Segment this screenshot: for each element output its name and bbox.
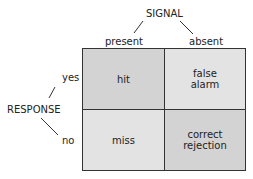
cell-correct-rejection-line2: rejection [183,140,227,151]
cell-correct-rejection: correct rejection [165,110,245,170]
cell-false-alarm-line2: alarm [191,79,220,90]
cell-false-alarm-line1: false [191,68,220,79]
cell-hit: hit [83,49,165,110]
contingency-matrix: hit false alarm miss correct rejection [82,48,246,171]
signal-absent-label: absent [189,36,223,47]
cell-miss: miss [83,110,165,170]
cell-false-alarm: false alarm [165,49,245,110]
cell-hit-label: hit [117,74,130,85]
response-yes-label: yes [62,72,79,83]
cell-correct-rejection-line1: correct [183,129,227,140]
response-no-label: no [62,135,74,146]
response-title: RESPONSE [7,104,61,115]
cell-miss-label: miss [112,135,135,146]
signal-title: SIGNAL [146,8,183,19]
signal-present-label: present [105,36,143,47]
